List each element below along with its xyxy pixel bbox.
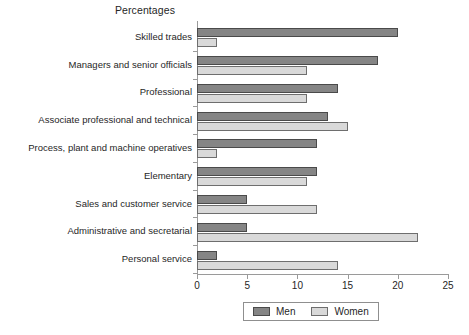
bar-women-administrative-and-secretarial <box>197 233 418 242</box>
legend-swatch-women-icon <box>311 307 328 316</box>
bar-women-skilled-trades <box>197 38 217 47</box>
bar-women-professional <box>197 94 307 103</box>
bar-women-elementary <box>197 177 307 186</box>
category-label: Associate professional and technical <box>38 115 192 125</box>
category-label: Sales and customer service <box>75 198 192 208</box>
legend-item-men[interactable]: Men <box>253 306 295 317</box>
category-label: Skilled trades <box>135 32 192 42</box>
category-row: Managers and senior officials <box>197 51 448 79</box>
category-row: Personal service <box>197 245 448 273</box>
category-row: Administrative and secretarial <box>197 217 448 245</box>
bar-men-associate-professional-and-technical <box>197 112 328 121</box>
x-axis-tick-label: 10 <box>292 280 303 291</box>
x-axis-tick-label: 20 <box>392 280 403 291</box>
category-label: Managers and senior officials <box>69 59 192 69</box>
bar-men-elementary <box>197 167 317 176</box>
category-row: Sales and customer service <box>197 190 448 218</box>
x-axis-tick <box>398 275 399 279</box>
legend-label: Men <box>276 306 295 317</box>
category-label: Process, plant and machine operatives <box>28 143 192 153</box>
legend-item-women[interactable]: Women <box>311 306 368 317</box>
x-axis-tick <box>297 275 298 279</box>
x-axis-tick-label: 15 <box>342 280 353 291</box>
bar-men-process-plant-and-machine-operatives <box>197 139 317 148</box>
legend-label: Women <box>334 306 368 317</box>
category-label: Personal service <box>122 254 192 264</box>
bar-men-administrative-and-secretarial <box>197 223 247 232</box>
x-axis-tick-label: 0 <box>194 280 200 291</box>
x-axis-tick-label: 5 <box>244 280 250 291</box>
plot-area: Skilled tradesManagers and senior offici… <box>197 23 448 273</box>
category-row: Associate professional and technical <box>197 106 448 134</box>
bar-men-personal-service <box>197 251 217 260</box>
category-label: Elementary <box>144 171 192 181</box>
category-label: Administrative and secretarial <box>67 226 192 236</box>
bar-men-skilled-trades <box>197 28 398 37</box>
legend-swatch-men-icon <box>253 307 270 316</box>
x-axis: 0510152025 <box>197 275 449 297</box>
chart-legend: MenWomen <box>243 302 379 321</box>
bar-women-personal-service <box>197 261 338 270</box>
x-axis-tick-label: 25 <box>442 280 453 291</box>
chart-title: Percentages <box>0 4 290 16</box>
bar-women-associate-professional-and-technical <box>197 122 348 131</box>
bar-men-managers-and-senior-officials <box>197 56 378 65</box>
bar-women-process-plant-and-machine-operatives <box>197 149 217 158</box>
bar-women-managers-and-senior-officials <box>197 66 307 75</box>
x-axis-tick <box>448 275 449 279</box>
category-row: Process, plant and machine operatives <box>197 134 448 162</box>
bar-women-sales-and-customer-service <box>197 205 317 214</box>
category-row: Professional <box>197 79 448 107</box>
bar-men-professional <box>197 84 338 93</box>
category-row: Skilled trades <box>197 23 448 51</box>
category-label: Professional <box>140 87 192 97</box>
percentages-bar-chart: Percentages Skilled tradesManagers and s… <box>0 0 469 335</box>
x-axis-tick <box>197 275 198 279</box>
y-axis-tick <box>193 273 197 274</box>
x-axis-tick <box>348 275 349 279</box>
x-axis-tick <box>247 275 248 279</box>
category-row: Elementary <box>197 162 448 190</box>
bar-men-sales-and-customer-service <box>197 195 247 204</box>
